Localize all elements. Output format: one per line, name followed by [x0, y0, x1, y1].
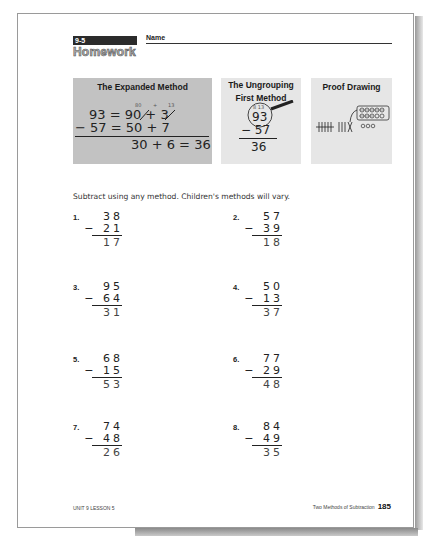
problem-7: 7. 74 − 48 26 — [73, 420, 153, 480]
answer: 53 — [73, 378, 123, 391]
page-shadow — [415, 16, 423, 530]
example-title: Proof Drawing — [311, 82, 392, 93]
ungrouping-first-example: The Ungrouping First Method 8 13 93 − 57… — [221, 78, 301, 164]
ungrouping-top: 93 — [252, 110, 267, 124]
expanded-method-example: The Expanded Method 80 + 13 93 = 90 + 3 … — [73, 78, 212, 164]
problem-2: 2. 57 − 39 18 — [233, 210, 313, 270]
page-number: 185 — [378, 502, 391, 511]
example-title: The Expanded Method — [73, 82, 212, 93]
page-shadow — [135, 528, 418, 536]
ungrouping-sub: − 57 — [241, 123, 270, 137]
page-title: Homework — [73, 45, 136, 59]
name-field-line[interactable] — [146, 43, 392, 44]
expanded-row-3: 30 + 6 = 36 — [131, 138, 211, 152]
footer-lesson-title: Two Methods of Subtraction — [313, 504, 375, 510]
answer: 31 — [73, 306, 123, 319]
lesson-tag: 9-5 — [73, 36, 137, 45]
footer-title: Two Methods of Subtraction185 — [313, 502, 391, 511]
footer-unit-lesson: UNIT 9 LESSON 5 — [73, 505, 115, 511]
sum-rule — [239, 138, 277, 139]
answer: 17 — [73, 236, 123, 249]
subtrahend: − 48 — [73, 432, 123, 445]
example-title: The Ungrouping — [221, 80, 301, 91]
proof-drawing-example: Proof Drawing — [311, 78, 392, 164]
answer: 37 — [233, 306, 283, 319]
subtrahend: − 29 — [233, 364, 283, 377]
proof-drawing-icon — [313, 98, 391, 140]
expanded-row-2: − 57 = 50 + 7 — [75, 121, 170, 135]
subtrahend: − 39 — [233, 222, 283, 235]
problem-5: 5. 68 − 15 53 — [73, 352, 153, 412]
ungrouping-answer: 36 — [251, 140, 266, 154]
problem-3: 3. 95 − 64 31 — [73, 280, 153, 340]
name-label: Name — [146, 34, 165, 41]
subtrahend: − 21 — [73, 222, 123, 235]
subtrahend: − 15 — [73, 364, 123, 377]
answer: 18 — [233, 236, 283, 249]
problem-4: 4. 50 − 13 37 — [233, 280, 313, 340]
subtrahend: − 13 — [233, 292, 283, 305]
worksheet-page: 9-5 Homework Name The Expanded Method 80… — [17, 13, 414, 528]
subtrahend: − 64 — [73, 292, 123, 305]
answer: 48 — [233, 378, 283, 391]
problem-6: 6. 77 − 29 48 — [233, 352, 313, 412]
instructions: Subtract using any method. Children's me… — [73, 192, 290, 201]
problem-1: 1. 38 − 21 17 — [73, 210, 153, 270]
answer: 26 — [73, 446, 123, 459]
answer: 35 — [233, 446, 283, 459]
subtrahend: − 49 — [233, 432, 283, 445]
problem-8: 8. 84 − 49 35 — [233, 420, 313, 480]
